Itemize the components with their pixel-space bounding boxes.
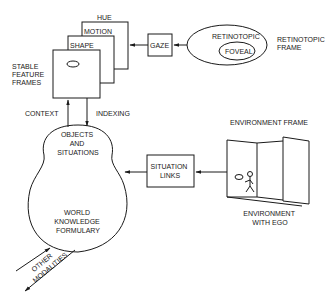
world-knowledge-label: WORLD KNOWLEDGE FORMULARY [54,209,101,234]
diagram-canvas: HUE MOTION SHAPE STABLE FEATURE FRAMES G… [0,0,336,303]
feature-frames-stack: HUE MOTION SHAPE [53,14,128,98]
shape-label: SHAPE [70,42,94,49]
environment-frame-label: ENVIRONMENT FRAME [230,119,308,126]
ego-stick-figure-icon [245,172,254,193]
retinotopic-label: RETINOTOPIC [212,33,260,40]
shape-frame [53,50,100,98]
gaze-label: GAZE [150,42,169,49]
objects-situations-label: OBJECTS AND SITUATIONS [57,131,99,156]
environment-room [227,137,309,206]
retinotopic-frame-label: RETINOTOPIC FRAME [277,36,327,51]
motion-label: MOTION [84,28,112,35]
indexing-label: INDEXING [96,110,130,117]
ego-thought-ellipse [235,175,243,180]
hue-label: HUE [97,14,112,21]
stable-feature-frames-label: STABLE FEATURE FRAMES [12,63,46,86]
context-label: CONTEXT [25,110,59,117]
environment-with-ego-label: ENVIRONMENT WITH EGO [243,210,297,226]
foveal-label: FOVEAL [225,48,253,55]
situation-links-box [147,155,194,187]
